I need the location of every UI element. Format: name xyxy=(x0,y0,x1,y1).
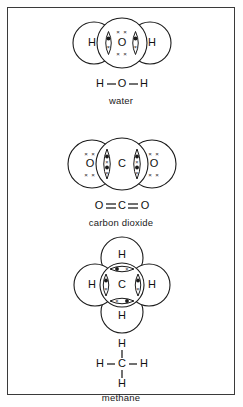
methane-h-right-label: H xyxy=(148,278,156,290)
water-formula-h-left: H xyxy=(96,77,104,89)
co2-shared-electron-dot-left-1 xyxy=(105,155,109,159)
co2-shared-electron-cross-right-2: × xyxy=(135,170,138,176)
water-caption: water xyxy=(8,95,234,106)
water-o-lonepair-top: × × xyxy=(116,28,127,35)
co2-shared-electron-dot-right-1 xyxy=(135,155,139,159)
water-shared-electron-cross-left: × xyxy=(107,44,110,50)
water-o-lonepair-bottom: × × xyxy=(116,50,127,57)
water-h-left-label: H xyxy=(88,36,96,48)
co2-dot-cross-diagram: × × × × × × × × × × × × O C O xyxy=(8,133,236,195)
water-dot-cross-diagram: × × × × × × H O H xyxy=(8,13,236,73)
molecule-carbon-dioxide: × × × × × × × × × × × × O C O xyxy=(8,133,234,238)
co2-formula-o-left: O xyxy=(95,199,104,211)
co2-shared-electron-dot-right-2 xyxy=(135,166,139,170)
methane-formula-h-top: H xyxy=(118,337,126,349)
methane-formula-h-right: H xyxy=(140,357,148,369)
co2-o-right-lonepair-bottom: × × xyxy=(148,171,159,178)
co2-formula-o-right: O xyxy=(141,199,150,211)
water-shared-electron-cross-right: × xyxy=(134,44,137,50)
water-o-label: O xyxy=(118,36,127,48)
co2-o-right-label: O xyxy=(150,157,159,169)
methane-formula-c: C xyxy=(118,357,126,369)
methane-shared-electron-cross-top: × xyxy=(125,266,128,272)
molecule-methane: × × × × H H C H H H H xyxy=(8,236,234,396)
water-formula-o: O xyxy=(118,77,127,89)
methane-bond-lens-bottom xyxy=(110,298,134,304)
methane-formula-h-bottom: H xyxy=(118,377,126,389)
water-bond-lens-right xyxy=(133,32,139,55)
co2-formula-c: C xyxy=(118,199,126,211)
co2-shared-electron-cross-left-2: × xyxy=(105,170,108,176)
co2-structural-formula: O C O xyxy=(8,197,236,215)
co2-o-left-label: O xyxy=(86,157,95,169)
methane-shared-electron-cross-left: × xyxy=(104,286,107,292)
methane-shared-electron-dot-right xyxy=(136,279,140,283)
methane-bond-lens-top xyxy=(110,266,134,272)
co2-c-label: C xyxy=(118,157,126,169)
methane-shared-electron-dot-bottom xyxy=(125,299,129,303)
co2-o-right-lonepair-top: × × xyxy=(148,150,159,157)
methane-shared-electron-dot-top xyxy=(115,267,119,271)
methane-structural-formula: H H C H H xyxy=(8,336,236,390)
methane-formula-h-left: H xyxy=(96,357,104,369)
co2-o-left-lonepair-top: × × xyxy=(84,150,95,157)
methane-dot-cross-diagram: × × × × H H C H H xyxy=(8,236,236,334)
water-h-right-label: H xyxy=(148,36,156,48)
water-formula-h-right: H xyxy=(140,77,148,89)
co2-caption: carbon dioxide xyxy=(8,217,234,228)
water-bond-lens-left xyxy=(106,32,112,55)
methane-h-left-label: H xyxy=(88,278,96,290)
water-structural-formula: H O H xyxy=(8,75,236,93)
methane-h-top-label: H xyxy=(118,248,126,260)
methane-shared-electron-cross-right: × xyxy=(136,286,139,292)
methane-shared-electron-cross-bottom: × xyxy=(115,298,118,304)
co2-shared-electron-cross-right-1: × xyxy=(135,159,138,165)
co2-shared-electron-cross-left-1: × xyxy=(105,159,108,165)
diagram-frame: × × × × × × H O H H O H water xyxy=(7,7,235,395)
methane-caption: methane xyxy=(8,392,234,403)
methane-shared-electron-dot-left xyxy=(104,279,108,283)
co2-o-left-lonepair-bottom: × × xyxy=(84,171,95,178)
molecule-water: × × × × × × H O H H O H water xyxy=(8,13,234,113)
water-shared-electron-dot-left xyxy=(107,37,111,41)
methane-h-bottom-label: H xyxy=(118,309,126,321)
methane-c-label: C xyxy=(118,278,126,290)
methane-bond-lens-left xyxy=(103,274,109,296)
methane-bond-lens-right xyxy=(135,274,141,296)
water-shared-electron-dot-right xyxy=(134,37,138,41)
co2-shared-electron-dot-left-2 xyxy=(105,166,109,170)
